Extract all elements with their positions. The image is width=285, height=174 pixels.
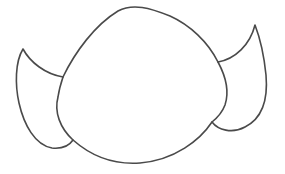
drawing-strokes <box>16 7 266 163</box>
left-ear <box>16 49 73 148</box>
line-drawing <box>0 0 285 174</box>
head <box>57 7 227 163</box>
